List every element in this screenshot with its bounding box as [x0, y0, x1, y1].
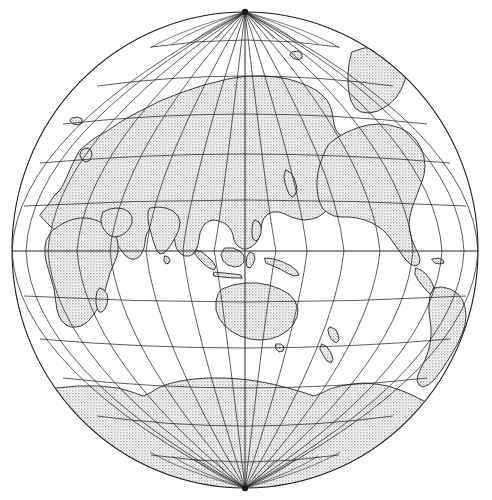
map-figure: World map on a globular projection [0, 0, 492, 500]
world-globe-svg [0, 0, 492, 500]
north-pole-marker [242, 9, 248, 15]
south-pole-marker [242, 485, 248, 491]
